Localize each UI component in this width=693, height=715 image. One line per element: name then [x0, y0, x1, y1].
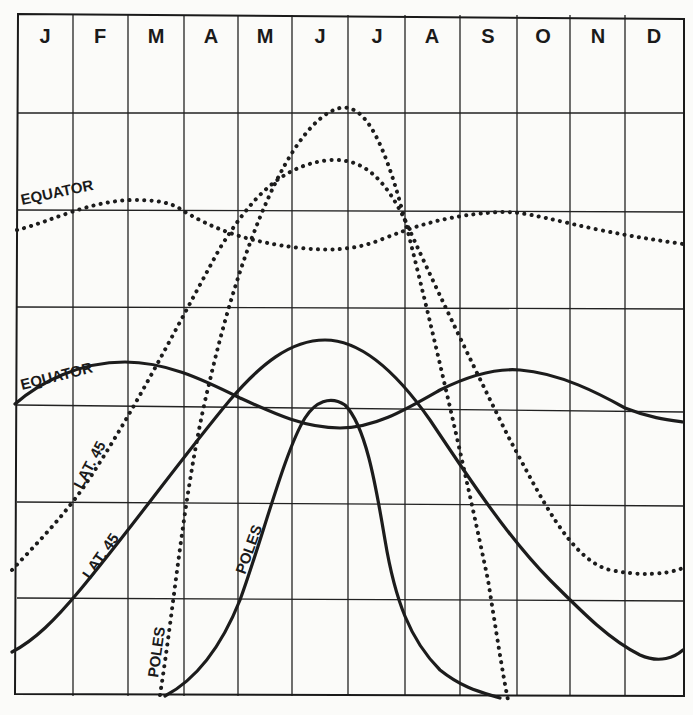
lat45-dotted-label: LAT. 45 [70, 438, 109, 491]
month-label: F [94, 25, 106, 47]
chart-grid [17, 15, 684, 696]
lat45-solid-label: LAT. 45 [79, 530, 122, 582]
poles-dotted-curve [160, 108, 508, 700]
month-label: J [39, 25, 50, 47]
equator-solid-curve [15, 362, 683, 428]
month-label: N [591, 25, 605, 47]
month-label: A [425, 25, 439, 47]
month-label: D [647, 25, 661, 47]
month-label: J [314, 25, 325, 47]
month-label: O [535, 25, 551, 47]
equator-solid-label: EQUATOR [19, 359, 95, 393]
poles-solid-label: POLES [232, 522, 265, 576]
month-label: S [481, 25, 494, 47]
month-label: M [257, 25, 274, 47]
poles-solid-curve [165, 400, 500, 698]
equator-dotted-curve [17, 200, 683, 249]
seasonal-curves-chart: J F M A M J J A S O N D EQUATOR EQUATOR … [0, 0, 693, 715]
month-label: M [148, 25, 165, 47]
equator-dotted-label: EQUATOR [19, 176, 95, 208]
poles-dotted-label: POLES [144, 626, 168, 679]
chart-frame [15, 14, 684, 696]
month-label: J [371, 25, 382, 47]
month-axis: J F M A M J J A S O N D [39, 25, 661, 47]
month-label: A [204, 25, 218, 47]
